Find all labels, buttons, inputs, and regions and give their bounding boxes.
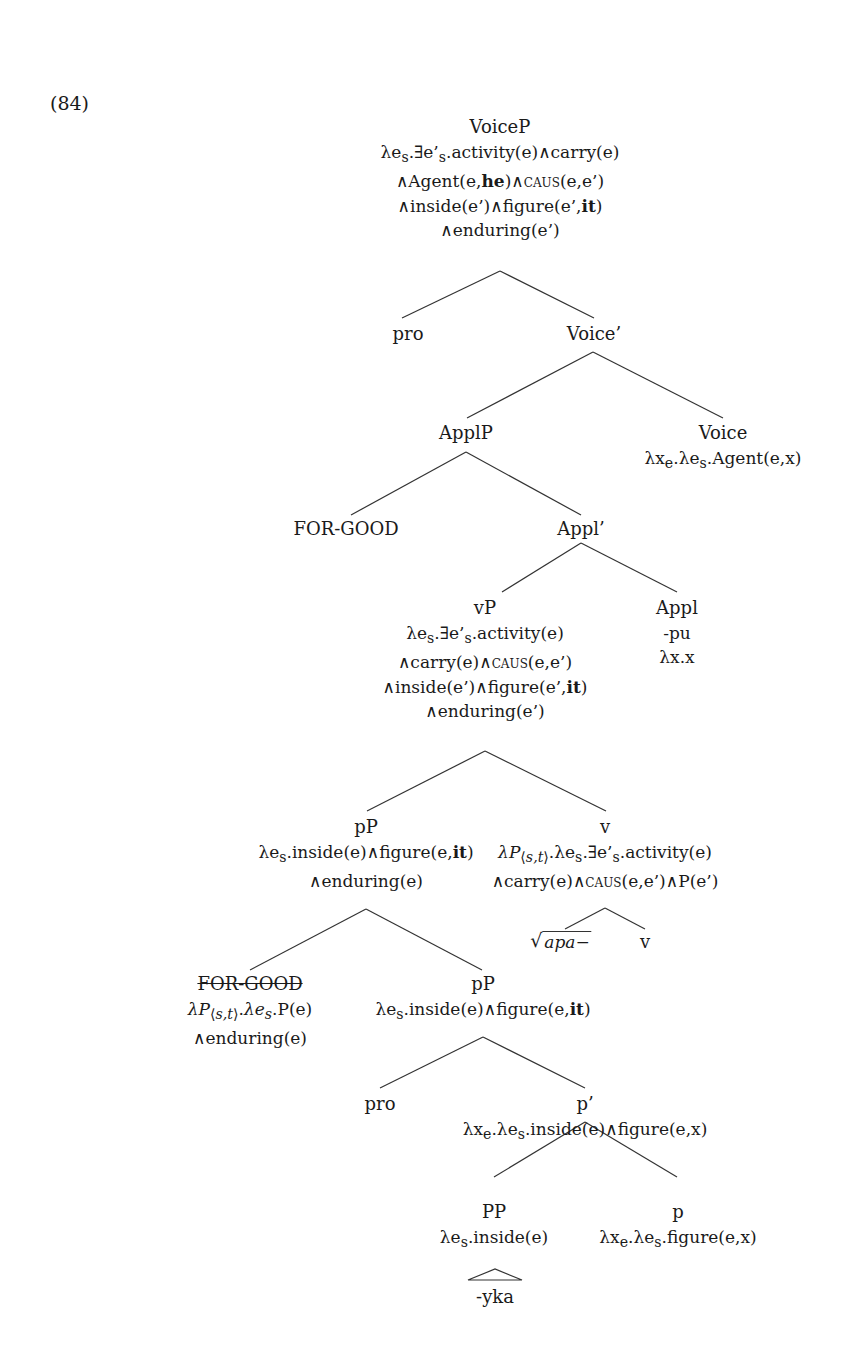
node-label: PP [440,1200,548,1225]
root-label: apa− [542,931,591,952]
node-v-head: v [640,930,650,955]
node-label: vP [383,596,588,621]
node-label: Voice [644,421,801,446]
node-p: p λxe.λes.figure(e,x) [599,1200,756,1254]
sem-line: λx.x [656,645,698,670]
node-label: pro [365,1092,396,1117]
node-for-good: FOR-GOOD [293,517,398,542]
sem-line: ∧enduring(e) [258,869,473,894]
sem-line: λes.inside(e)∧figure(e,it) [375,997,590,1027]
sem-line: λxe.λes.figure(e,x) [599,1225,756,1255]
node-label: pP [258,815,473,840]
sem-line: ∧enduring(e’) [381,218,620,243]
node-label: pP [375,972,590,997]
node-applp: ApplP [439,421,493,446]
node-v: v λP⟨s,t⟩.λes.∃e’s.activity(e) ∧carry(e)… [492,815,719,894]
node-label: Appl’ [557,517,605,542]
node-p-bar: p’ λxe.λes.inside(e)∧figure(e,x) [463,1092,708,1146]
sem-line: λes.inside(e) [440,1225,548,1255]
node-PP: PP λes.inside(e) [440,1200,548,1254]
node-for-good-struck: FOR-GOOD λP⟨s,t⟩.λes.P(e) ∧enduring(e) [188,972,312,1051]
node-label: pro [393,322,424,347]
node-label: FOR-GOOD [293,517,398,542]
sem-line: λes.∃e’s.activity(e)∧carry(e) [381,140,620,170]
node-label: ApplP [439,421,493,446]
node-pp-lower: pP λes.inside(e)∧figure(e,it) [375,972,590,1026]
sem-line: ∧carry(e)∧caus(e,e’)∧P(e’) [492,869,719,894]
sem-line: λes.∃e’s.activity(e) [383,621,588,651]
node-label: p [599,1200,756,1225]
node-appl: Appl -pu λx.x [656,596,698,670]
node-label: VoiceP [381,115,620,140]
sem-line: λes.inside(e)∧figure(e,it) [258,840,473,870]
node-pp-upper: pP λes.inside(e)∧figure(e,it) ∧enduring(… [258,815,473,894]
sem-line: λP⟨s,t⟩.λes.∃e’s.activity(e) [492,840,719,870]
node-label: Voice’ [567,322,621,347]
node-yka: -yka [476,1285,514,1310]
sem-line: ∧inside(e’)∧figure(e’,it) [381,194,620,219]
sem-line: ∧carry(e)∧caus(e,e’) [383,650,588,675]
node-pro-lower: pro [365,1092,396,1117]
node-label: p’ [463,1092,708,1117]
node-label: v [492,815,719,840]
node-root-apa: apa− [530,930,591,955]
sem-line: ∧enduring(e’) [383,699,588,724]
node-label: v [640,930,650,955]
sem-line: ∧Agent(e,he)∧caus(e,e’) [381,169,620,194]
node-appl-bar: Appl’ [557,517,605,542]
sem-line: -pu [656,621,698,646]
node-label: FOR-GOOD [188,972,312,997]
node-label: Appl [656,596,698,621]
node-label: -yka [476,1285,514,1310]
node-vp: vP λes.∃e’s.activity(e) ∧carry(e)∧caus(e… [383,596,588,724]
sem-line: ∧inside(e’)∧figure(e’,it) [383,675,588,700]
sem-line: ∧enduring(e) [188,1026,312,1051]
node-voice-bar: Voice’ [567,322,621,347]
node-voice: Voice λxe.λes.Agent(e,x) [644,421,801,475]
sem-line: λP⟨s,t⟩.λes.P(e) [188,997,312,1027]
node-pro: pro [393,322,424,347]
sem-line: λxe.λes.Agent(e,x) [644,446,801,476]
sem-line: λxe.λes.inside(e)∧figure(e,x) [463,1117,708,1147]
node-voicep: VoiceP λes.∃e’s.activity(e)∧carry(e) ∧Ag… [381,115,620,243]
